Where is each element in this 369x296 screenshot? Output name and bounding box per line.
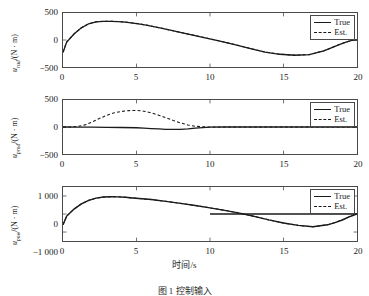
- legend-line-solid-icon: [314, 106, 331, 113]
- subplot-2-legend: True Est.: [310, 102, 355, 127]
- y-label-unit: /(N · m): [10, 34, 19, 60]
- legend-entry-est: Est.: [314, 202, 350, 211]
- y-label-subscript: pow: [15, 232, 21, 241]
- subplot-1-xtick-10: 10: [206, 73, 215, 82]
- subplot-2-ytick-500: 500: [24, 95, 58, 104]
- subplot-3-ytick-m1000: −1 000: [18, 248, 58, 257]
- subplot-3-xtick-5: 5: [134, 247, 139, 256]
- legend-line-dashed-icon: [314, 116, 331, 123]
- legend-line-dashed-icon: [314, 203, 331, 210]
- legend-entry-true: True: [314, 18, 350, 27]
- subplot-3-xtick-0: 0: [60, 247, 65, 256]
- subplot-1-xtick-5: 5: [134, 73, 139, 82]
- subplot-1-y-axis-label: urud/(N · m): [11, 34, 22, 72]
- subplot-1-legend: True Est.: [310, 15, 355, 40]
- subplot-2-y-axis-label: uprod/(N · m): [11, 118, 22, 158]
- y-label-symbol: u: [10, 241, 19, 245]
- subplot-1-xticks: [137, 13, 284, 67]
- subplot-1-xtick-0: 0: [60, 73, 65, 82]
- legend-entry-est: Est.: [314, 115, 350, 124]
- legend-label-true: True: [334, 192, 350, 201]
- figure-container: urud/(N · m) 500 0 −500 True: [0, 0, 369, 296]
- legend-entry-true: True: [314, 192, 350, 201]
- subplot-1-ytick-m500: −500: [24, 64, 58, 73]
- legend-label-est: Est.: [334, 28, 347, 37]
- subplot-3-xtick-10: 10: [206, 247, 215, 256]
- subplot-1-ytick-500: 500: [24, 8, 58, 17]
- subplot-1-xtick-15: 15: [280, 73, 289, 82]
- subplot-3-legend: True Est.: [310, 189, 355, 214]
- legend-entry-true: True: [314, 105, 350, 114]
- subplot-2-ytick-0: 0: [24, 123, 58, 132]
- subplot-1-ytick-0: 0: [24, 36, 58, 45]
- subplot-1-plot-area: True Est.: [62, 12, 358, 68]
- legend-entry-est: Est.: [314, 28, 350, 37]
- y-label-symbol: u: [10, 68, 19, 72]
- subplot-2-xtick-10: 10: [206, 160, 215, 169]
- subplot-3-xtick-20: 20: [354, 247, 363, 256]
- subplot-3-ytick-0: 0: [18, 220, 58, 229]
- legend-label-est: Est.: [334, 115, 347, 124]
- subplot-1-xtick-20: 20: [354, 73, 363, 82]
- figure-caption: 图 1 控制输入: [0, 286, 369, 296]
- y-label-subscript: rud: [15, 60, 21, 68]
- legend-line-solid-icon: [314, 19, 331, 26]
- y-label-subscript: prod: [15, 144, 21, 154]
- subplot-2-xtick-0: 0: [60, 160, 65, 169]
- y-label-unit: /(N · m): [10, 118, 19, 144]
- legend-label-true: True: [334, 18, 350, 27]
- legend-label-true: True: [334, 105, 350, 114]
- subplot-3-plot-area: True Est.: [62, 186, 358, 242]
- subplot-2-plot-area: True Est.: [62, 99, 358, 155]
- subplot-3-ytick-1000: 1 000: [18, 192, 58, 201]
- x-axis-label: 时间/s: [0, 261, 369, 270]
- subplot-2-ytick-m500: −500: [24, 151, 58, 160]
- subplot-2-series-true: [63, 127, 357, 129]
- legend-label-est: Est.: [334, 202, 347, 211]
- legend-line-solid-icon: [314, 193, 331, 200]
- subplot-2-xtick-15: 15: [280, 160, 289, 169]
- subplot-2-xtick-5: 5: [134, 160, 139, 169]
- y-label-symbol: u: [10, 154, 19, 158]
- subplot-2-xtick-20: 20: [354, 160, 363, 169]
- legend-line-dashed-icon: [314, 29, 331, 36]
- subplot-3-xtick-15: 15: [280, 247, 289, 256]
